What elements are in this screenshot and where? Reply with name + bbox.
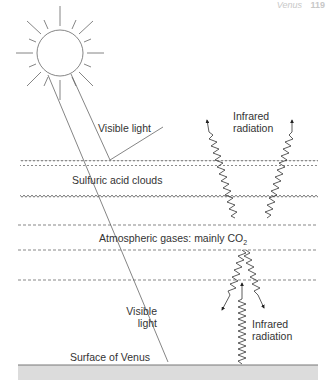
label-infrared-top-line1: Infrared	[233, 110, 273, 122]
label-visible-light-bottom-line1: Visible	[120, 305, 157, 317]
label-visible-light-top: Visible light	[98, 122, 151, 134]
cloud-layer-top	[20, 160, 318, 166]
label-atmosphere: Atmospheric gases: mainly CO2	[99, 232, 247, 249]
label-infrared-bottom-line2: radiation	[252, 330, 292, 342]
sun-icon	[16, 6, 104, 100]
label-infrared-top-line2: radiation	[233, 122, 273, 134]
cloud-layer-bottom	[20, 195, 318, 201]
label-infrared-top: Infrared radiation	[233, 110, 273, 134]
label-infrared-bottom: Infrared radiation	[252, 318, 292, 342]
surface-band	[18, 365, 318, 380]
label-visible-light-bottom-line2: light	[120, 317, 157, 329]
label-atmosphere-subscript: 2	[243, 239, 247, 246]
label-surface: Surface of Venus	[70, 351, 150, 363]
label-clouds: Sulfuric acid clouds	[72, 174, 162, 186]
label-visible-light-bottom: Visible light	[120, 305, 157, 329]
label-infrared-bottom-line1: Infrared	[252, 318, 292, 330]
label-atmosphere-text: Atmospheric gases: mainly CO	[99, 232, 243, 244]
